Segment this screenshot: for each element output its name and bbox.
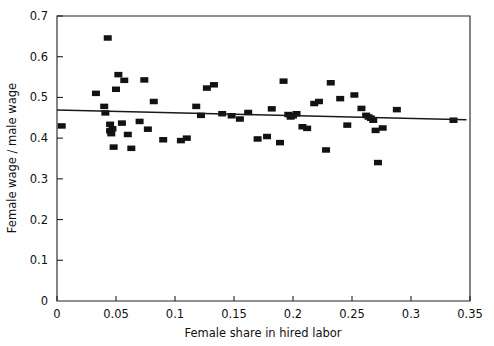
x-axis-title: Female share in hired labor	[184, 326, 341, 340]
x-tick-label: 0	[53, 307, 60, 321]
y-tick-label: 0.3	[30, 172, 48, 186]
data-point	[350, 92, 358, 98]
data-point	[343, 122, 351, 128]
y-axis-ticks	[57, 16, 63, 260]
data-point	[268, 106, 276, 112]
data-point	[110, 144, 118, 150]
plot-frame	[57, 16, 470, 301]
data-point	[336, 96, 344, 102]
data-point	[374, 160, 382, 166]
data-point	[236, 116, 244, 122]
data-point	[100, 104, 108, 110]
data-point	[107, 131, 115, 137]
data-point	[192, 104, 200, 110]
x-tick-label: 0.05	[103, 307, 129, 321]
trend-line	[57, 110, 466, 120]
x-tick-label: 0.25	[339, 307, 365, 321]
data-point	[136, 119, 144, 125]
data-point	[203, 85, 211, 91]
data-point	[144, 126, 152, 132]
data-point	[159, 137, 167, 143]
data-point	[183, 135, 191, 141]
data-point	[104, 35, 112, 41]
data-point	[124, 132, 132, 138]
y-axis-title: Female wage / male wage	[5, 83, 19, 233]
data-point	[254, 136, 262, 142]
data-point	[263, 134, 271, 140]
data-point	[92, 91, 100, 97]
plot-svg: 00.050.10.150.20.250.30.35 00.10.20.30.4…	[0, 0, 494, 346]
data-point	[327, 80, 335, 86]
y-tick-label: 0	[41, 294, 48, 308]
data-point	[120, 78, 128, 84]
x-tick-label: 0.35	[457, 307, 483, 321]
data-point	[127, 146, 135, 152]
x-tick-label: 0.3	[402, 307, 420, 321]
y-tick-label: 0.6	[30, 50, 48, 64]
data-point	[118, 120, 126, 126]
data-point	[372, 128, 380, 133]
data-point	[58, 123, 66, 129]
y-axis-tick-labels: 00.10.20.30.40.50.60.7	[30, 9, 48, 308]
data-point	[379, 125, 387, 131]
data-point	[114, 72, 122, 78]
data-point	[303, 126, 311, 132]
scatter-chart-figure: 00.050.10.150.20.250.30.35 00.10.20.30.4…	[0, 0, 494, 346]
data-point	[393, 107, 401, 113]
y-tick-label: 0.1	[30, 253, 48, 267]
x-tick-label: 0.1	[166, 307, 184, 321]
data-point	[357, 106, 365, 112]
y-tick-label: 0.5	[30, 90, 48, 104]
data-point	[276, 140, 284, 146]
x-axis-ticks	[57, 296, 470, 301]
data-point	[140, 77, 148, 83]
y-tick-label: 0.4	[30, 131, 48, 145]
data-point	[150, 99, 158, 105]
data-point-markers	[58, 35, 458, 165]
data-point	[108, 126, 116, 131]
data-point	[280, 78, 288, 84]
x-tick-label: 0.2	[284, 307, 302, 321]
x-axis-tick-labels: 00.050.10.150.20.250.30.35	[53, 307, 482, 321]
data-point	[112, 87, 120, 93]
axis-frame-path	[57, 16, 470, 301]
x-tick-label: 0.15	[221, 307, 247, 321]
data-point	[210, 82, 218, 88]
data-point	[322, 147, 330, 153]
data-point	[315, 99, 323, 105]
y-tick-label: 0.2	[30, 213, 48, 227]
y-tick-label: 0.7	[30, 9, 48, 23]
